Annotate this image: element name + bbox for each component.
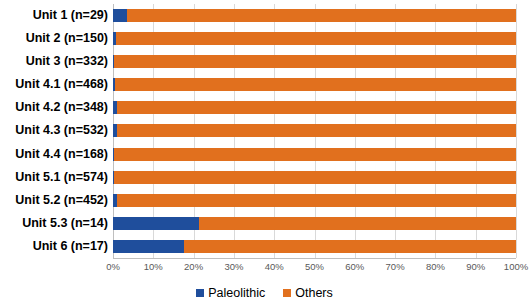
bar-track (113, 171, 516, 184)
bar-segment-others (199, 217, 516, 230)
bar-row: Unit 6 (n=17) (113, 235, 516, 258)
bar-row: Unit 2 (n=150) (113, 27, 516, 50)
bar-row: Unit 5.2 (n=452) (113, 189, 516, 212)
x-tick-label: 90% (466, 261, 485, 272)
bar-segment-others (117, 101, 516, 114)
stacked-bar-chart: Unit 1 (n=29)Unit 2 (n=150)Unit 3 (n=332… (0, 0, 529, 306)
bar-segment-paleolithic (113, 240, 184, 253)
legend-label: Others (295, 286, 333, 300)
x-tick-label: 50% (305, 261, 324, 272)
bar-track (113, 217, 516, 230)
bar-segment-others (117, 194, 516, 207)
x-tick-label: 40% (265, 261, 284, 272)
legend-swatch-icon (283, 289, 291, 297)
x-tick-label: 100% (504, 261, 528, 272)
bar-row: Unit 4.2 (n=348) (113, 96, 516, 119)
x-axis-tick-labels: 0%10%20%30%40%50%60%70%80%90%100% (113, 261, 516, 277)
bar-track (113, 194, 516, 207)
category-label: Unit 5.3 (n=14) (0, 212, 108, 235)
bar-row: Unit 5.1 (n=574) (113, 166, 516, 189)
chart-legend: PaleolithicOthers (0, 286, 529, 300)
x-tick-label: 0% (106, 261, 120, 272)
bar-track (113, 148, 516, 161)
category-label: Unit 1 (n=29) (0, 4, 108, 27)
bar-segment-others (114, 171, 516, 184)
x-tick-label: 80% (426, 261, 445, 272)
gridline-100% (516, 4, 517, 258)
bar-row: Unit 5.3 (n=14) (113, 212, 516, 235)
bar-track (113, 240, 516, 253)
legend-item[interactable]: Others (283, 286, 333, 300)
bar-row: Unit 3 (n=332) (113, 50, 516, 73)
category-label: Unit 4.4 (n=168) (0, 143, 108, 166)
bar-track (113, 78, 516, 91)
x-tick-label: 20% (184, 261, 203, 272)
category-label: Unit 5.1 (n=574) (0, 166, 108, 189)
bar-segment-paleolithic (113, 217, 199, 230)
category-label: Unit 4.3 (n=532) (0, 119, 108, 142)
bar-track (113, 55, 516, 68)
category-label: Unit 5.2 (n=452) (0, 189, 108, 212)
category-label: Unit 2 (n=150) (0, 27, 108, 50)
category-label: Unit 4.2 (n=348) (0, 96, 108, 119)
category-label: Unit 6 (n=17) (0, 235, 108, 258)
bar-segment-others (114, 55, 516, 68)
bar-row: Unit 1 (n=29) (113, 4, 516, 27)
x-tick-label: 10% (144, 261, 163, 272)
x-axis-line (113, 258, 516, 259)
legend-item[interactable]: Paleolithic (196, 286, 265, 300)
x-tick-label: 30% (224, 261, 243, 272)
bar-segment-others (114, 148, 516, 161)
bar-segment-others (116, 32, 516, 45)
plot-area: Unit 1 (n=29)Unit 2 (n=150)Unit 3 (n=332… (113, 4, 516, 258)
bar-segment-others (184, 240, 516, 253)
legend-swatch-icon (196, 289, 204, 297)
bar-track (113, 9, 516, 22)
bar-row: Unit 4.1 (n=468) (113, 73, 516, 96)
bar-track (113, 124, 516, 137)
bar-track (113, 32, 516, 45)
x-tick-label: 70% (386, 261, 405, 272)
bar-segment-others (117, 124, 516, 137)
legend-label: Paleolithic (208, 286, 265, 300)
bar-segment-others (115, 78, 516, 91)
category-label: Unit 3 (n=332) (0, 50, 108, 73)
bar-row: Unit 4.4 (n=168) (113, 143, 516, 166)
bar-segment-others (127, 9, 516, 22)
bar-track (113, 101, 516, 114)
category-label: Unit 4.1 (n=468) (0, 73, 108, 96)
x-tick-label: 60% (345, 261, 364, 272)
bar-segment-paleolithic (113, 9, 127, 22)
bar-row: Unit 4.3 (n=532) (113, 119, 516, 142)
